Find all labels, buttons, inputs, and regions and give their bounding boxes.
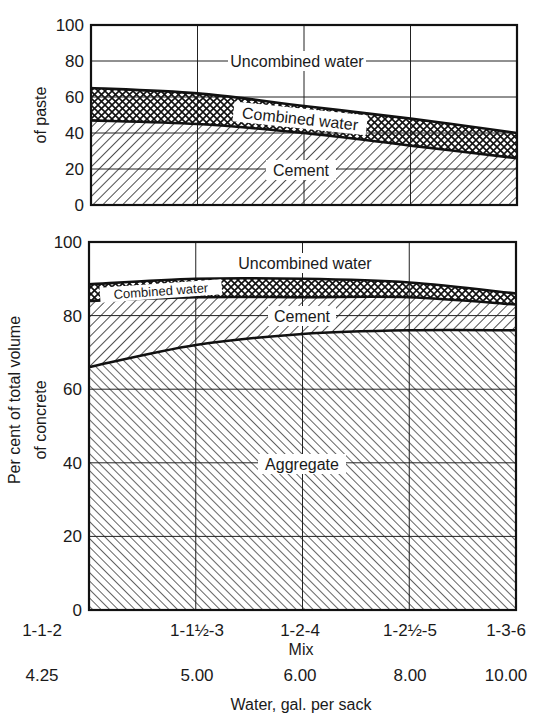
bottom-cement-label: Cement	[274, 308, 331, 325]
y-tick-label: 60	[65, 88, 84, 107]
mix-tick-label: 1-3-6	[486, 621, 526, 640]
concrete-volume-chart: 020406080100 Uncombined water Combined w…	[54, 233, 516, 620]
mix-tick-labels: 1-1-21-1½-31-2-41-2½-51-3-6	[22, 621, 526, 640]
y-tick-label: 60	[63, 380, 82, 399]
y-tick-label: 40	[63, 454, 82, 473]
y-tick-label: 20	[63, 527, 82, 546]
y-tick-label: 20	[65, 160, 84, 179]
water-tick-labels: 4.255.006.008.0010.00	[25, 666, 527, 685]
y-tick-label: 0	[75, 196, 84, 215]
top-uncombined-water-label: Uncombined water	[230, 53, 364, 70]
shared-y-axis-title: Per cent of total volume	[6, 316, 23, 484]
y-tick-label: 0	[73, 601, 82, 620]
paste-volume-chart: 020406080100 Uncombined water Combined w…	[56, 16, 517, 215]
water-tick-label: 4.25	[25, 666, 58, 685]
y-tick-label: 100	[54, 233, 82, 252]
water-axis-title: Water, gal. per sack	[231, 696, 373, 713]
mix-tick-label: 1-1-2	[22, 621, 62, 640]
bottom-aggregate-label: Aggregate	[265, 456, 339, 473]
y-tick-label: 80	[65, 52, 84, 71]
water-tick-label: 5.00	[180, 666, 213, 685]
water-tick-label: 8.00	[393, 666, 426, 685]
y-tick-label: 80	[63, 307, 82, 326]
concrete-composition-chart: 020406080100 Uncombined water Combined w…	[0, 0, 542, 721]
mix-tick-label: 1-1½-3	[170, 621, 224, 640]
bottom-y-axis-subtitle: of concrete	[32, 380, 49, 459]
mix-tick-label: 1-2½-5	[383, 621, 437, 640]
top-cement-label: Cement	[273, 162, 330, 179]
bottom-uncombined-water-label: Uncombined water	[238, 255, 372, 272]
water-tick-label: 10.00	[485, 666, 528, 685]
mix-axis-title: Mix	[289, 641, 314, 658]
mix-tick-label: 1-2-4	[280, 621, 320, 640]
top-y-axis-subtitle: of paste	[32, 86, 49, 143]
water-tick-label: 6.00	[283, 666, 316, 685]
y-tick-label: 40	[65, 124, 84, 143]
y-tick-label: 100	[56, 16, 84, 35]
